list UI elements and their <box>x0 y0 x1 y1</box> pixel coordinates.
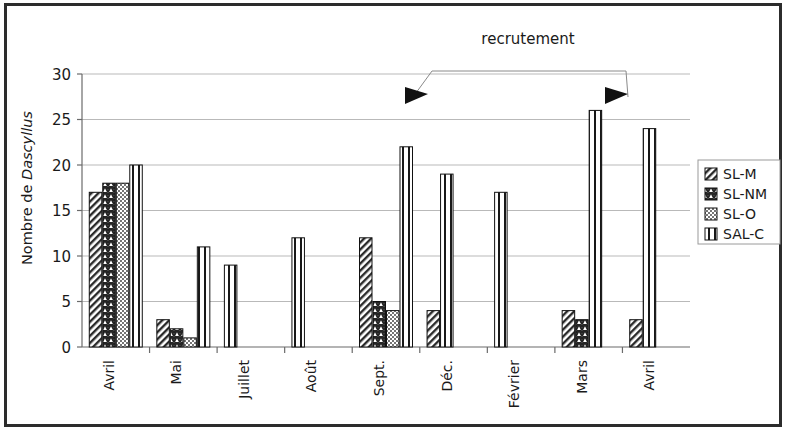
legend: SL-MSL-NMSL-OSAL-C <box>698 160 780 244</box>
y-tick-label: 5 <box>61 293 71 311</box>
chart-canvas: 051015202530 AvrilMaiJuilletAoûtSept.Déc… <box>0 0 786 432</box>
y-tick-label: 25 <box>52 111 71 129</box>
legend-swatch-sal-c <box>705 228 717 240</box>
bar <box>495 192 508 347</box>
legend-label: SL-NM <box>723 186 767 202</box>
recrutement-annotation: recrutement <box>405 30 628 104</box>
x-tick-label: Mars <box>574 360 590 394</box>
legend-label: SL-M <box>723 166 757 182</box>
x-tick-label: Mai <box>168 360 184 385</box>
x-tick-label: Déc. <box>439 360 455 392</box>
annotation-label: recrutement <box>481 30 574 48</box>
bars <box>89 110 655 347</box>
annotation-bracket <box>413 71 628 97</box>
legend-swatch-sl-o <box>705 208 717 220</box>
y-axis-title: Nombre de Dascyllus <box>19 111 35 265</box>
bar <box>630 320 643 347</box>
bar <box>427 311 440 347</box>
annotation-arrow-left-icon <box>405 87 428 104</box>
y-tick-label: 30 <box>52 66 71 84</box>
y-tick-label: 10 <box>52 248 71 266</box>
x-tick-label: Avril <box>641 360 657 391</box>
y-tick-label: 0 <box>61 339 71 357</box>
bar <box>589 110 602 347</box>
x-tick-label: Février <box>506 360 522 408</box>
bar <box>643 129 656 347</box>
x-tick-label: Avril <box>101 360 117 391</box>
bar <box>89 192 102 347</box>
y-axis-title-plain: Nombre de <box>19 180 35 265</box>
legend-label: SAL-C <box>723 226 764 242</box>
bar <box>130 165 143 347</box>
bar <box>197 247 210 347</box>
bar <box>116 183 129 347</box>
bar <box>157 320 170 347</box>
bar <box>184 338 197 347</box>
x-tick-label: Sept. <box>371 360 387 396</box>
bar <box>387 311 400 347</box>
bar <box>576 320 589 347</box>
y-axis-title-italic: Dascyllus <box>19 111 35 180</box>
annotation-arrow-right-icon <box>605 87 628 104</box>
x-axis-tick-labels: AvrilMaiJuilletAoûtSept.Déc.FévrierMarsA… <box>101 347 657 408</box>
y-tick-label: 20 <box>52 157 71 175</box>
bar <box>224 265 237 347</box>
legend-swatch-sl-nm <box>705 188 717 200</box>
chart-page: 051015202530 AvrilMaiJuilletAoûtSept.Déc… <box>0 0 786 432</box>
legend-label: SL-O <box>723 206 756 222</box>
bar-chart-svg: 051015202530 AvrilMaiJuilletAoûtSept.Déc… <box>0 0 786 432</box>
bar <box>400 147 413 347</box>
bar <box>562 311 575 347</box>
legend-swatch-sl-m <box>705 168 717 180</box>
y-tick-label: 15 <box>52 202 71 220</box>
bar <box>360 238 373 347</box>
x-tick-label: Juillet <box>236 359 252 399</box>
y-axis-tick-labels: 051015202530 <box>52 66 82 357</box>
bar <box>292 238 305 347</box>
bar <box>441 174 454 347</box>
svg-text:Nombre de Dascyllus: Nombre de Dascyllus <box>19 111 35 265</box>
bar <box>103 183 116 347</box>
bar <box>170 329 183 347</box>
bar <box>373 302 386 348</box>
x-tick-label: Août <box>303 359 319 392</box>
